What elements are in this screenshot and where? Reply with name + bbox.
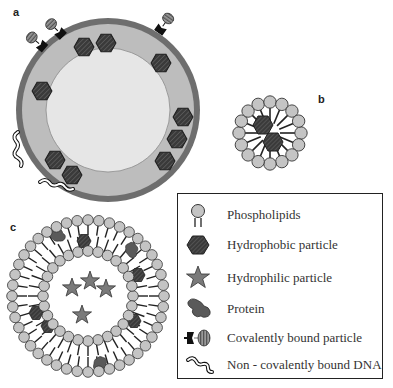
legend-label: Covalently bound particle <box>227 330 362 346</box>
hexagon-icon <box>184 230 214 260</box>
panel-c-vesicle <box>7 215 170 378</box>
legend-item-dna: Non - covalently bound DNA <box>178 350 382 380</box>
legend-label: Phospholipids <box>227 207 301 223</box>
panel-b-micelle <box>233 96 307 170</box>
legend-item-hydrophobic: Hydrophobic particle <box>178 230 382 260</box>
panel-label-c: c <box>10 221 16 233</box>
legend: Phospholipids Hydrophobic particle Hydro… <box>177 193 383 379</box>
star-icon <box>184 263 214 293</box>
legend-item-phospholipids: Phospholipids <box>178 200 382 230</box>
covalent-particle-icon <box>180 323 214 353</box>
legend-item-hydrophilic: Hydrophilic particle <box>178 263 382 293</box>
legend-label: Protein <box>227 301 265 317</box>
legend-item-protein: Protein <box>178 293 382 323</box>
legend-label: Hydrophilic particle <box>227 270 332 286</box>
dna-icon <box>184 350 214 380</box>
panel-label-a: a <box>13 6 19 18</box>
legend-label: Hydrophobic particle <box>227 237 338 253</box>
protein-icon <box>184 293 214 323</box>
legend-label: Non - covalently bound DNA <box>227 357 382 373</box>
panel-a-liposome <box>14 11 200 202</box>
phospholipid-icon <box>184 200 214 230</box>
panel-label-b: b <box>318 93 325 105</box>
legend-item-covalent: Covalently bound particle <box>178 323 382 353</box>
